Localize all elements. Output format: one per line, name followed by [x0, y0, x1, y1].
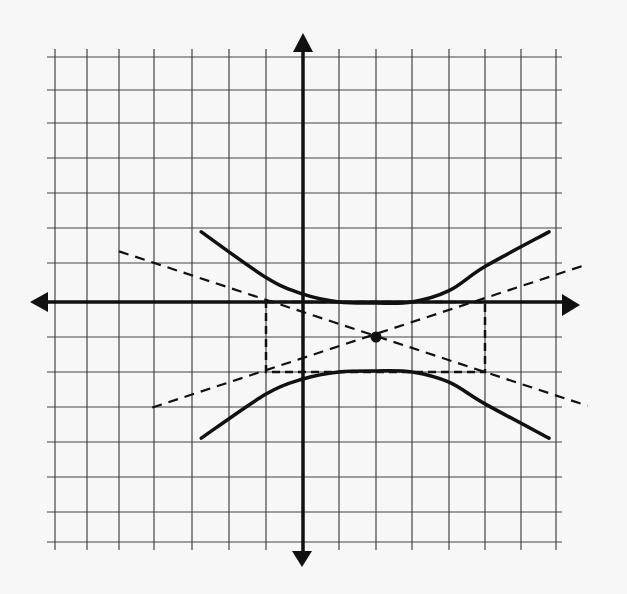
y-axis-up-arrow-icon — [293, 33, 313, 52]
center-point — [371, 332, 382, 343]
y-axis-down-arrow-icon — [292, 551, 312, 567]
hyperbola-graph — [0, 0, 627, 594]
x-axis-left-arrow-icon — [30, 292, 48, 312]
lower-branch — [201, 371, 549, 438]
asymptote-line — [152, 264, 587, 407]
asymptotes — [119, 251, 588, 407]
center-dot-icon — [371, 332, 382, 343]
upper-branch — [201, 232, 549, 303]
coordinate-axes — [30, 33, 580, 567]
x-axis-right-arrow-icon — [562, 294, 580, 316]
asymptote-line — [119, 251, 588, 405]
